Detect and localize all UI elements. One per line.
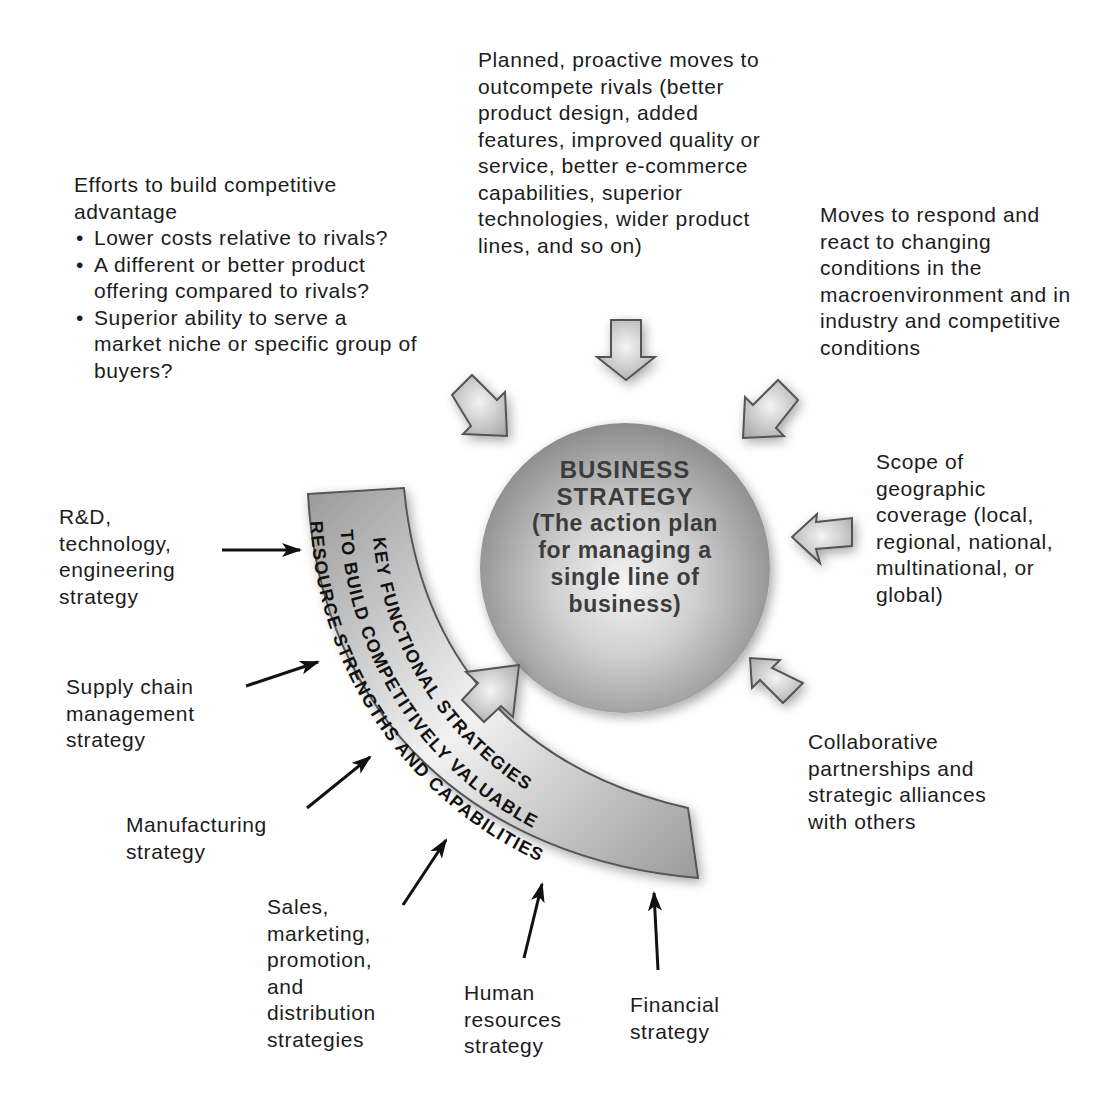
bullet-market-niche: Superior ability to serve a market niche…	[74, 305, 419, 385]
arrow-supply-chain-icon	[246, 662, 318, 686]
label-supply-chain-strategy: Supply chain management strategy	[66, 674, 246, 754]
arrow-hr-icon	[524, 884, 542, 958]
partnerships-text: Collaborative partnerships and strategic…	[808, 729, 998, 835]
geographic-scope-text: Scope of geographic coverage (local, reg…	[876, 449, 1076, 608]
arrow-geographic-scope-icon	[792, 514, 852, 563]
arrow-competitive-advantage-icon	[452, 375, 507, 436]
proactive-moves-text: Planned, proactive moves to outcompete r…	[478, 47, 783, 259]
arrow-manufacturing-icon	[307, 757, 370, 808]
arrow-reactive-moves-icon	[743, 380, 798, 438]
competitive-advantage-block: Efforts to build competitive advantage L…	[74, 172, 419, 384]
competitive-advantage-heading: Efforts to build competitive advantage	[74, 172, 419, 225]
arrow-proactive-moves-icon	[597, 320, 655, 380]
bullet-better-product: A different or better product offering c…	[74, 252, 419, 305]
arrow-partnerships-icon	[750, 658, 803, 703]
bullet-lower-costs: Lower costs relative to rivals?	[74, 225, 419, 252]
center-label: BUSINESS STRATEGY (The action plan for m…	[510, 456, 740, 618]
competitive-advantage-list: Lower costs relative to rivals? A differ…	[74, 225, 419, 384]
label-hr-strategy: Human resources strategy	[464, 980, 589, 1060]
label-manufacturing-strategy: Manufacturing strategy	[126, 812, 311, 865]
center-title-line1: BUSINESS	[510, 456, 740, 483]
center-title-line2: STRATEGY	[510, 483, 740, 510]
arrow-financial-icon	[654, 893, 658, 970]
label-sales-marketing-strategy: Sales, marketing, promotion, and distrib…	[267, 894, 412, 1053]
reactive-moves-text: Moves to respond and react to changing c…	[820, 202, 1080, 361]
label-rd-strategy: R&D, technology, engineering strategy	[59, 504, 209, 610]
center-subtitle: (The action plan for managing a single l…	[510, 510, 740, 618]
label-financial-strategy: Financial strategy	[630, 992, 750, 1045]
